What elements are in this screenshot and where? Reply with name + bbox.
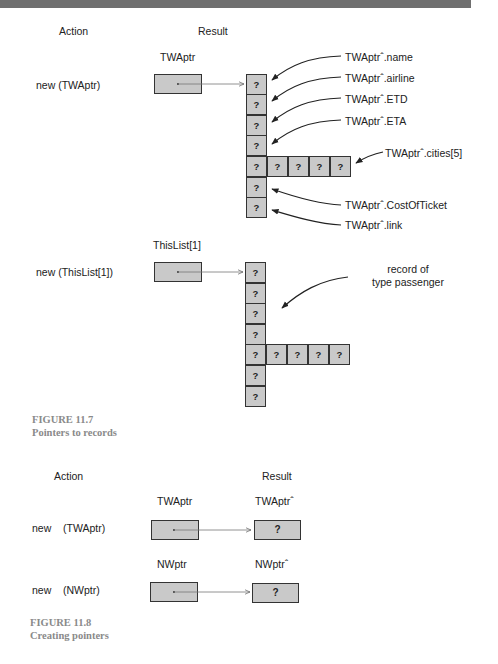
pointer-label: NWptr: [157, 558, 187, 570]
eta-arrow: [272, 120, 341, 144]
result-header: Result: [262, 470, 292, 482]
airline-arrow: [272, 77, 341, 101]
action-arg: (TWAptr): [63, 522, 105, 534]
record-cell: ?: [245, 386, 266, 407]
figure-title: Pointers to records: [32, 426, 117, 439]
cities-array-cell: ?: [330, 156, 351, 177]
field-cities-cell: ?: [246, 156, 267, 177]
link-arrow: [272, 210, 341, 225]
action-new: new: [32, 584, 51, 596]
label-airline: TWAptrˆ.airline: [345, 72, 415, 84]
pointer-dot: [173, 529, 175, 531]
field-eta-cell: ?: [246, 135, 267, 156]
pointer-dot: [177, 271, 179, 273]
label-cities: TWAptrˆ.cities[5]: [385, 147, 462, 159]
figure-number: FIGURE 11.7: [32, 413, 93, 426]
record-annotation-arrow: [282, 277, 348, 308]
pointer-dot: [173, 591, 175, 593]
action-header: Action: [54, 470, 83, 482]
record-cell: ?: [245, 262, 266, 283]
page-header-band: [0, 0, 471, 8]
array-cell: ?: [308, 344, 329, 365]
array-cell: ?: [329, 344, 350, 365]
action-arg: (NWptr): [63, 584, 100, 596]
record-cell: ?: [245, 283, 266, 304]
array-cell: ?: [287, 344, 308, 365]
result-header: Result: [198, 25, 228, 37]
record-cell: ?: [245, 365, 266, 386]
cities-array-cell: ?: [288, 156, 309, 177]
field-link-cell: ?: [246, 197, 267, 218]
cost-arrow: [272, 189, 341, 205]
pointer-label: TWAptr: [157, 495, 192, 507]
figure-number: FIGURE 11.8: [30, 616, 91, 629]
record-cell: ?: [245, 324, 266, 345]
cities-array-cell: ?: [267, 156, 288, 177]
pointer-box: [151, 520, 199, 540]
label-etd: TWAptrˆ.ETD: [345, 93, 408, 105]
action-text: new (ThisList[1]): [36, 266, 113, 278]
action-new: new: [32, 522, 51, 534]
label-cost: TWAptrˆ.CostOfTicket: [345, 199, 447, 211]
field-cost-cell: ?: [246, 177, 267, 198]
field-name-cell: ?: [246, 74, 267, 95]
cities-array-cell: ?: [309, 156, 330, 177]
annotation-line2: type passenger: [355, 276, 461, 288]
target-box: ?: [254, 520, 301, 540]
action-text: new (TWAptr): [36, 79, 100, 91]
label-eta: TWAptrˆ.ETA: [345, 115, 406, 127]
cities-arrow: [356, 152, 383, 163]
field-airline-cell: ?: [246, 94, 267, 115]
annotation-line1: record of: [368, 263, 448, 275]
name-arrow: [272, 56, 341, 80]
target-box: ?: [252, 583, 299, 603]
target-label: TWAptrˆ: [255, 495, 294, 507]
pointer-label: TWAptr: [160, 51, 195, 63]
record-cell: ?: [245, 303, 266, 324]
pointer-label: ThisList[1]: [153, 239, 201, 251]
target-label: NWptrˆ: [255, 558, 288, 570]
pointer-dot: [177, 83, 179, 85]
figure-title: Creating pointers: [30, 629, 109, 642]
label-link: TWAptrˆ.link: [345, 219, 402, 231]
label-name: TWAptrˆ.name: [345, 51, 413, 63]
record-cell: ?: [245, 344, 266, 365]
array-cell: ?: [266, 344, 287, 365]
action-header: Action: [59, 25, 88, 37]
etd-arrow: [272, 98, 341, 122]
field-etd-cell: ?: [246, 115, 267, 136]
